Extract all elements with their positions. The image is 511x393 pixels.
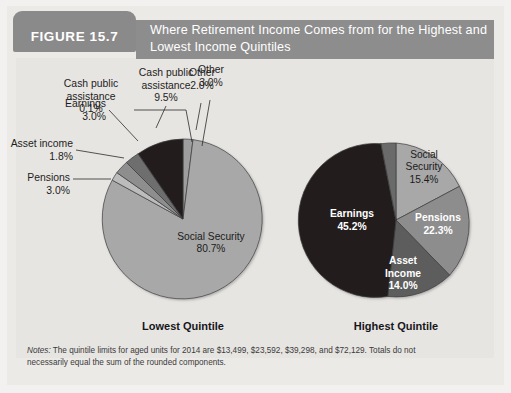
leader-cash-public-highest-2 <box>186 110 192 142</box>
caption-lowest-quintile: Lowest Quintile <box>123 320 243 332</box>
label-cash-public-assistance-highest: Cash public assistance 0.1% <box>44 78 138 116</box>
label-cash-public-highest-value: 0.1% <box>79 103 103 114</box>
leader-other-highest <box>202 100 210 146</box>
leader-cash-public-lowest <box>156 106 166 128</box>
leader-lines-highest <box>134 100 210 146</box>
label-social-security-highest-line2: Security <box>406 161 443 172</box>
leader-asset-income-lowest <box>76 150 124 158</box>
label-earnings-highest-name: Earnings <box>330 208 374 219</box>
chart-area: Earnings 3.0% Asset income 1.8% Pensions… <box>16 58 494 333</box>
label-earnings-highest: Earnings 45.2% <box>316 208 388 233</box>
label-cash-public-highest-line1: Cash public <box>64 78 118 89</box>
label-other-highest: Other 3.0% <box>186 64 236 89</box>
label-cash-public-lowest-value: 9.5% <box>154 92 178 103</box>
label-social-security-lowest-value: 80.7% <box>197 243 226 254</box>
notes-prefix: Notes: <box>27 346 51 355</box>
label-other-highest-value: 3.0% <box>199 77 223 88</box>
label-asset-income-lowest: Asset income 1.8% <box>0 138 73 163</box>
label-asset-income-highest-line1: Asset <box>389 255 417 266</box>
label-social-security-highest-value: 15.4% <box>410 174 439 185</box>
notes-body: The quintile limits for aged units for 2… <box>27 346 415 367</box>
label-social-security-lowest-name: Social Security <box>177 231 244 242</box>
label-asset-income-lowest-name: Asset income <box>11 138 73 149</box>
figure-notes: Notes: The quintile limits for aged unit… <box>27 345 447 368</box>
label-asset-income-highest-line2: Income <box>385 268 421 279</box>
label-pensions-lowest: Pensions 3.0% <box>0 172 70 197</box>
label-pensions-highest-name: Pensions <box>415 212 461 223</box>
figure-number-tab: FIGURE 15.7 <box>13 11 136 52</box>
figure-number-label: FIGURE 15.7 <box>13 11 136 52</box>
label-social-security-highest: Social Security 15.4% <box>394 149 454 186</box>
label-cash-public-highest-line2: assistance <box>66 91 115 102</box>
label-pensions-lowest-value: 3.0% <box>46 185 70 196</box>
label-asset-income-highest-value: 14.0% <box>388 280 417 291</box>
caption-highest-quintile: Highest Quintile <box>336 320 456 332</box>
label-other-highest-name: Other <box>198 64 224 75</box>
figure-container: FIGURE 15.7 Where Retirement Income Come… <box>0 0 511 393</box>
label-asset-income-highest: Asset Income 14.0% <box>372 255 434 293</box>
figure-title: Where Retirement Income Comes from for t… <box>150 22 494 58</box>
label-social-security-highest-line1: Social <box>410 149 438 160</box>
label-social-security-lowest: Social Security 80.7% <box>151 231 271 256</box>
label-pensions-lowest-name: Pensions <box>27 172 70 183</box>
label-asset-income-lowest-value: 1.8% <box>49 151 73 162</box>
leader-other-lowest <box>196 103 201 130</box>
label-pensions-highest-value: 22.3% <box>423 225 452 236</box>
pie-lowest-quintile <box>102 139 262 299</box>
label-earnings-highest-value: 45.2% <box>337 221 366 232</box>
label-pensions-highest: Pensions 22.3% <box>401 212 475 237</box>
